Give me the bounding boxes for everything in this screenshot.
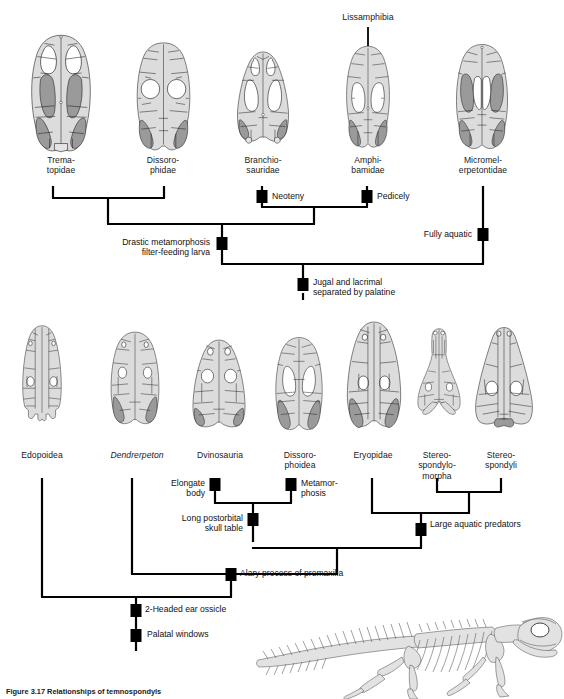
char-label-alary-process: Alary process of premaxilla: [240, 568, 430, 578]
char-label-long-postorbital: Long postorbital skull table: [155, 513, 243, 534]
figure-text: Lissamphibia Trema- topidae Dissoro- phi…: [0, 0, 564, 699]
taxon-label-eryopidae: Eryopidae: [338, 450, 408, 460]
figure-temnospondyl-cladogram: .bone { fill:#dcdcdc; stroke:#1a1a1a; st…: [0, 0, 564, 699]
char-label-neoteny: Neoteny: [272, 191, 342, 201]
taxon-label-dissorophidae: Dissoro- phidae: [123, 155, 203, 176]
char-label-fully-aquatic: Fully aquatic: [400, 229, 472, 239]
taxon-label-amphibamidae: Amphi- bamidae: [328, 155, 408, 176]
taxon-label-dissorophoidea: Dissoro- phoidea: [266, 450, 334, 471]
char-label-elongate-body: Elongate body: [143, 478, 205, 499]
figure-caption: Figure 3.17 Relationships of temnospondy…: [6, 687, 558, 699]
taxon-label-stereospondylomorpha: Stereo- spondylo- morpha: [406, 450, 468, 481]
taxon-label-dvinosauria: Dvinosauria: [183, 450, 257, 460]
char-label-metamorphosis: Metamor- phosis: [301, 478, 367, 499]
char-label-large-aquatic-predators: Large aquatic predators: [430, 519, 560, 529]
char-label-palatal-windows: Palatal windows: [147, 629, 287, 639]
taxon-label-edopoidea: Edopoidea: [5, 450, 79, 460]
taxon-label-branchiosauridae: Branchio- sauridae: [221, 155, 305, 176]
char-label-pedicely: Pedicely: [377, 191, 447, 201]
char-label-two-headed-ear-ossicle: 2-Headed ear ossicle: [145, 604, 305, 614]
apex-label-lissamphibia: Lissamphibia: [318, 12, 418, 23]
taxon-label-micromelerpetontidae: Micromel- erpetontidae: [437, 155, 529, 176]
char-label-drastic-metamorphosis: Drastic metamorphosis filter-feeding lar…: [86, 237, 210, 258]
taxon-label-dendrerpeton: Dendrerpeton: [95, 450, 179, 460]
figure-caption-text: Figure 3.17 Relationships of temnospondy…: [6, 687, 161, 696]
char-label-jugal-lacrimal: Jugal and lacrimal separated by palatine: [313, 277, 453, 298]
taxon-label-trematopidae: Trema- topidae: [21, 155, 101, 176]
taxon-label-stereospondyli: Stereo- spondyli: [470, 450, 532, 471]
